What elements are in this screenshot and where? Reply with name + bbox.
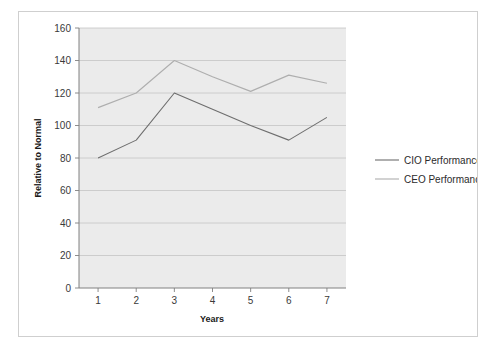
y-axis-ticks: 020406080100120140160 [54, 23, 79, 294]
x-tick-label: 1 [95, 295, 101, 306]
chart-figure: 020406080100120140160 1234567 Years Rela… [18, 11, 478, 337]
y-tick-label: 120 [54, 88, 71, 99]
x-tick-label: 2 [133, 295, 139, 306]
y-tick-label: 40 [60, 218, 72, 229]
x-tick-label: 3 [172, 295, 178, 306]
x-tick-label: 7 [324, 295, 330, 306]
x-tick-label: 5 [248, 295, 254, 306]
x-tick-label: 4 [210, 295, 216, 306]
x-axis-title: Years [200, 314, 224, 324]
y-tick-label: 20 [60, 250, 72, 261]
y-tick-label: 140 [54, 55, 71, 66]
x-tick-label: 6 [286, 295, 292, 306]
line-chart: 020406080100120140160 1234567 Years Rela… [19, 12, 477, 336]
chart-legend: CIO PerformanceCEO Performance [375, 155, 477, 185]
y-tick-label: 100 [54, 120, 71, 131]
y-tick-label: 80 [60, 153, 72, 164]
y-axis-title: Relative to Normal [33, 118, 43, 197]
y-tick-label: 60 [60, 185, 72, 196]
x-axis-ticks: 1234567 [95, 288, 330, 306]
y-tick-label: 0 [65, 283, 71, 294]
y-tick-label: 160 [54, 23, 71, 34]
legend-item-label: CIO Performance [404, 155, 477, 166]
legend-item-label: CEO Performance [404, 174, 477, 185]
